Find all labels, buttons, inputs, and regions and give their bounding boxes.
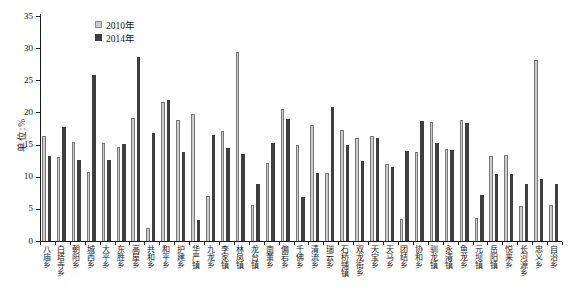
x-axis-label: 大平乡 bbox=[99, 245, 112, 295]
bar-2010-瑞云乡 bbox=[325, 173, 329, 241]
y-tick bbox=[36, 80, 40, 81]
x-axis-label: 南薰乡 bbox=[263, 245, 276, 295]
bar-2014-瑞云乡 bbox=[331, 107, 335, 241]
x-axis-label: 华严镇 bbox=[188, 245, 201, 295]
x-axis-label: 团结乡 bbox=[397, 245, 410, 295]
bar-2014-石桥铺镇 bbox=[346, 145, 350, 241]
bar-2014-自治乡 bbox=[555, 184, 559, 241]
x-axis-label: 偏岩乡 bbox=[278, 245, 291, 295]
y-tick-label: 35 bbox=[17, 12, 33, 21]
y-tick-label: 5 bbox=[17, 204, 33, 213]
bar-2010-驯龙镇 bbox=[430, 122, 434, 241]
x-axis-label: 天马乡 bbox=[382, 245, 395, 295]
bar-2010-团结乡 bbox=[400, 219, 404, 242]
bar-chart: 单位:% 05101520253035 2010年 2014年 八庙乡白塔寺乡朝… bbox=[0, 0, 575, 295]
x-axis-label: 瑞云乡 bbox=[322, 245, 335, 295]
x-axis-label: 东胜乡 bbox=[114, 245, 127, 295]
bar-2010-华严镇 bbox=[191, 114, 195, 241]
legend-swatch-2014 bbox=[95, 34, 102, 41]
bar-2014-清流乡 bbox=[316, 173, 320, 241]
bar-2010-南薰乡 bbox=[266, 163, 270, 241]
x-axis-label: 鱼龙乡 bbox=[457, 245, 470, 295]
legend-item-2014: 2014年 bbox=[95, 31, 135, 44]
legend-item-2010: 2010年 bbox=[95, 18, 135, 31]
x-axis-label: 岳阳镇 bbox=[486, 245, 499, 295]
bar-2010-大平乡 bbox=[102, 143, 106, 241]
bar-2014-天马乡 bbox=[391, 167, 395, 241]
bar-2010-天马乡 bbox=[385, 164, 389, 241]
x-axis-label: 清流乡 bbox=[307, 245, 320, 295]
bar-2014-鱼龙乡 bbox=[465, 123, 469, 241]
x-axis-label: 元坝镇 bbox=[472, 245, 485, 295]
bar-2010-鱼龙乡 bbox=[460, 120, 464, 241]
bar-2014-千佛乡 bbox=[301, 197, 305, 241]
legend-swatch-2010 bbox=[95, 21, 102, 28]
y-tick-label: 0 bbox=[17, 237, 33, 246]
bar-2010-永清镇 bbox=[445, 149, 449, 241]
x-axis-label: 城西乡 bbox=[84, 245, 97, 295]
bar-2014-南薰乡 bbox=[271, 143, 275, 241]
x-tick bbox=[562, 242, 563, 245]
x-axis-label: 龙台镇 bbox=[248, 245, 261, 295]
bar-2014-和平乡 bbox=[167, 100, 171, 241]
bar-2010-东胜乡 bbox=[117, 147, 121, 241]
bar-2014-悦来乡 bbox=[510, 174, 514, 242]
y-tick bbox=[36, 209, 40, 210]
y-tick-label: 15 bbox=[17, 140, 33, 149]
bar-2010-白塔寺乡 bbox=[57, 157, 61, 241]
bar-2014-林凤镇 bbox=[241, 154, 245, 241]
legend-label-2014: 2014年 bbox=[106, 31, 135, 45]
y-tick bbox=[36, 112, 40, 113]
y-tick-label: 25 bbox=[17, 76, 33, 85]
bar-2014-岳阳镇 bbox=[495, 174, 499, 241]
x-axis-label: 李家镇 bbox=[218, 245, 231, 295]
bar-2014-天宝乡 bbox=[376, 138, 380, 241]
x-axis-label: 双龙街乡 bbox=[352, 245, 365, 295]
x-axis-label: 朝阳乡 bbox=[69, 245, 82, 295]
bar-2010-双龙街乡 bbox=[355, 138, 359, 241]
y-axis-line bbox=[40, 14, 41, 241]
bar-2010-城西乡 bbox=[87, 172, 91, 241]
bar-2014-白塔寺乡 bbox=[62, 127, 66, 241]
bar-2014-城西乡 bbox=[92, 75, 96, 242]
bar-2010-忠义乡 bbox=[534, 60, 538, 241]
bar-2014-华严镇 bbox=[197, 220, 201, 241]
bar-2010-李家镇 bbox=[221, 131, 225, 241]
bar-2014-八庙乡 bbox=[48, 156, 52, 241]
x-axis-label: 白塔寺乡 bbox=[54, 245, 67, 295]
bar-2014-大平乡 bbox=[107, 160, 111, 241]
bar-2010-石桥铺镇 bbox=[340, 130, 344, 241]
x-axis-label: 共和乡 bbox=[143, 245, 156, 295]
bar-2014-高屋乡 bbox=[137, 57, 141, 242]
x-axis-label: 石桥铺镇 bbox=[337, 245, 350, 295]
bar-2014-长河源乡 bbox=[525, 184, 529, 241]
bar-2014-龙台镇 bbox=[256, 184, 260, 241]
x-axis-label: 驯龙镇 bbox=[427, 245, 440, 295]
bar-2010-天宝乡 bbox=[370, 136, 374, 241]
bar-2010-长河源乡 bbox=[519, 206, 523, 241]
y-tick-label: 10 bbox=[17, 172, 33, 181]
bar-2010-自治乡 bbox=[549, 205, 553, 241]
bar-2010-龙台镇 bbox=[251, 205, 255, 241]
x-axis-label: 悦来乡 bbox=[501, 245, 514, 295]
bar-2014-团结乡 bbox=[405, 151, 409, 241]
bar-2010-清流乡 bbox=[310, 125, 314, 241]
x-axis-label: 忠义乡 bbox=[531, 245, 544, 295]
bar-2014-永清镇 bbox=[450, 150, 454, 241]
bar-2014-协和乡 bbox=[420, 121, 424, 241]
legend-label-2010: 2010年 bbox=[106, 18, 135, 32]
y-tick-label: 20 bbox=[17, 108, 33, 117]
x-axis-label: 护建乡 bbox=[173, 245, 186, 295]
bar-2014-九龙乡 bbox=[212, 135, 216, 241]
x-axis-label: 和平乡 bbox=[158, 245, 171, 295]
bar-2010-千佛乡 bbox=[296, 145, 300, 241]
x-axis-label: 永清镇 bbox=[442, 245, 455, 295]
bar-2010-高屋乡 bbox=[131, 118, 135, 241]
bar-2010-共和乡 bbox=[146, 228, 150, 241]
bar-2014-李家镇 bbox=[226, 148, 230, 241]
bar-2010-九龙乡 bbox=[206, 196, 210, 241]
x-axis-label: 林凤镇 bbox=[233, 245, 246, 295]
bar-2014-双龙街乡 bbox=[361, 161, 365, 241]
bar-2010-朝阳乡 bbox=[72, 142, 76, 241]
bar-2014-朝阳乡 bbox=[77, 160, 81, 241]
